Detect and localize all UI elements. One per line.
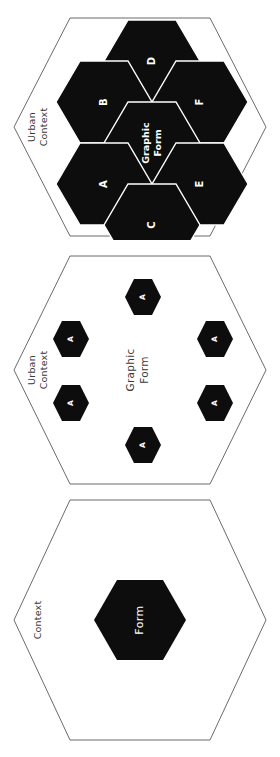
cell-c-label: C	[146, 221, 157, 229]
context-label-line2: Context	[38, 108, 49, 147]
small-hexagon-bottom-label: A	[138, 442, 147, 448]
small-hexagon-upper-left-label: A	[66, 336, 75, 342]
cell-f-label: F	[194, 98, 205, 105]
form-label: Form	[133, 605, 146, 634]
context-label-line1: Urban	[26, 112, 37, 142]
cell-b-label: B	[98, 98, 109, 106]
diagram-2-canvas: A A A A A A Graphic Form Urban Context	[0, 252, 280, 488]
figure-stack: D B F Graphic Form A E C Urban Context	[0, 0, 280, 757]
center-graphic-form-line1: Graphic	[140, 122, 151, 163]
context-label-line1: Urban	[26, 355, 37, 385]
center-graphic-form-line1: Graphic	[124, 349, 136, 392]
cell-a-label: A	[98, 180, 109, 188]
diagram-aggregated-form: D B F Graphic Form A E C Urban Context	[0, 14, 280, 240]
small-hexagon-lower-left-label: A	[66, 400, 75, 406]
center-graphic-form-line2: Form	[152, 129, 163, 156]
diagram-single-form: Form Context	[0, 496, 280, 744]
context-label: Context	[32, 601, 43, 640]
diagram-dispersed-form: A A A A A A Graphic Form Urban Context	[0, 252, 280, 488]
small-hexagon-top-label: A	[138, 294, 147, 300]
diagram-1-canvas: D B F Graphic Form A E C Urban Context	[0, 14, 280, 240]
small-hexagon-lower-right-label: A	[210, 400, 219, 406]
cell-e-label: E	[194, 180, 205, 187]
diagram-3-canvas: Form Context	[0, 496, 280, 744]
small-hexagon-upper-right-label: A	[210, 336, 219, 342]
context-label-line2: Context	[38, 351, 49, 390]
cell-d-label: D	[146, 57, 157, 66]
center-graphic-form-line2: Form	[138, 356, 150, 384]
